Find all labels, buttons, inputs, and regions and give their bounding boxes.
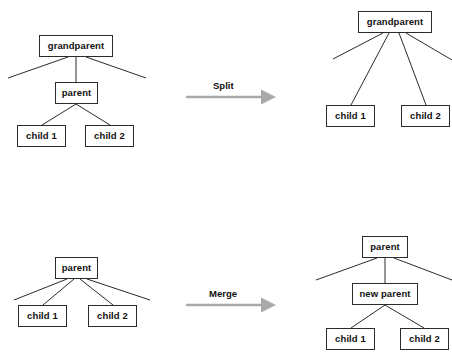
node-tl-child1: child 1	[17, 125, 66, 147]
node-bl-child1: child 1	[18, 305, 67, 327]
edge-tr-grandparent-to-stub-right	[406, 33, 452, 60]
split-arrow-head-icon	[261, 90, 276, 105]
node-tl-grandparent: grandparent	[39, 35, 113, 57]
edge-tl-parent-to-tl-child1	[42, 104, 76, 125]
merge-arrow-head-icon	[261, 298, 276, 313]
node-tr-child1: child 1	[326, 105, 375, 127]
edge-tl-grandparent-to-stub-left	[8, 57, 68, 78]
node-label: child 2	[97, 311, 128, 321]
node-label: child 1	[27, 311, 58, 321]
edge-bl-parent-to-stub-right	[87, 279, 150, 300]
edge-bl-parent-to-bl-child2	[80, 279, 113, 305]
node-tr-child2: child 2	[401, 105, 450, 127]
edge-bl-parent-to-stub-left	[14, 279, 67, 300]
node-br-child2: child 2	[400, 328, 449, 350]
edge-br-parent-to-stub-left	[316, 258, 377, 280]
node-tl-child2: child 2	[85, 125, 134, 147]
node-label: grandparent	[367, 17, 424, 27]
node-label: child 1	[335, 334, 366, 344]
node-label: parent	[370, 242, 400, 252]
edge-bl-parent-to-bl-child1	[43, 279, 74, 305]
node-tr-grandparent: grandparent	[358, 11, 432, 33]
node-label: grandparent	[48, 41, 105, 51]
node-br-child1: child 1	[326, 328, 375, 350]
edge-br-parent-to-stub-right	[394, 258, 452, 280]
edge-tl-grandparent-to-stub-right	[86, 57, 146, 78]
node-br-newparent: new parent	[352, 283, 418, 305]
edge-tr-grandparent-to-tr-child2	[399, 33, 426, 105]
node-label: new parent	[359, 289, 410, 299]
node-bl-parent: parent	[55, 257, 98, 279]
node-tl-parent: parent	[55, 82, 98, 104]
node-label: parent	[62, 88, 92, 98]
node-label: child 2	[409, 334, 440, 344]
node-label: parent	[62, 263, 92, 273]
node-label: child 2	[94, 131, 125, 141]
node-label: child 2	[410, 111, 441, 121]
node-bl-child2: child 2	[88, 305, 137, 327]
edge-tr-grandparent-to-tr-child1	[351, 33, 389, 105]
operation-arrows	[186, 90, 276, 313]
node-label: child 1	[26, 131, 57, 141]
edge-tr-grandparent-to-stub-left	[333, 33, 383, 59]
edge-br-newparent-to-br-child2	[385, 305, 424, 328]
node-br-parent: parent	[362, 236, 408, 258]
edge-tl-parent-to-tl-child2	[76, 104, 110, 125]
node-label: child 1	[335, 111, 366, 121]
edge-br-newparent-to-br-child1	[351, 305, 385, 328]
diagram-canvas: grandparentparentchild 1child 2grandpare…	[0, 0, 452, 358]
split-arrow-label: Split	[213, 80, 234, 91]
merge-arrow-label: Merge	[209, 288, 237, 299]
